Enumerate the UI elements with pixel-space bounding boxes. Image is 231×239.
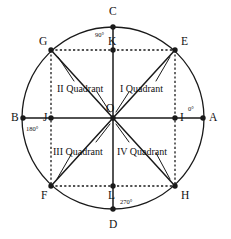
point-label-a: A bbox=[209, 112, 217, 124]
point-dot-j bbox=[48, 115, 53, 120]
point-label-b: B bbox=[11, 112, 19, 124]
circle-quadrant-figure: ABCDEFGHIJKLO0°90°180°270°I QuadrantII Q… bbox=[0, 0, 231, 239]
point-dot-l bbox=[110, 183, 115, 188]
point-label-g: G bbox=[39, 36, 47, 48]
angle-label-one-eighty: 180° bbox=[26, 126, 38, 133]
point-label-j: J bbox=[43, 112, 47, 124]
point-dot-a bbox=[200, 115, 205, 120]
point-dot-o bbox=[110, 115, 115, 120]
point-label-k: K bbox=[108, 36, 116, 48]
point-label-f: F bbox=[41, 190, 47, 202]
point-label-l: L bbox=[108, 190, 115, 202]
point-dot-i bbox=[172, 115, 177, 120]
quadrant-3-label: III Quadrant bbox=[53, 147, 103, 157]
point-dot-f bbox=[48, 183, 53, 188]
quadrant-4-label: IV Quadrant bbox=[117, 147, 167, 157]
leader-q3-to-O bbox=[96, 124, 110, 142]
point-label-h: H bbox=[181, 190, 189, 202]
leader-q2-to-G bbox=[58, 57, 74, 81]
angle-label-zero: 0° bbox=[188, 106, 194, 113]
point-dot-b bbox=[20, 115, 25, 120]
point-label-o: O bbox=[106, 103, 114, 115]
quadrant-2-label: II Quadrant bbox=[57, 84, 103, 94]
point-label-e: E bbox=[181, 36, 188, 48]
point-dot-d bbox=[110, 206, 115, 211]
angle-label-two-seventy: 270° bbox=[120, 199, 132, 206]
angle-label-ninety: 90° bbox=[95, 32, 104, 39]
point-label-i: I bbox=[180, 112, 184, 124]
point-dot-k bbox=[110, 47, 115, 52]
point-label-c: C bbox=[109, 6, 117, 18]
point-dot-g bbox=[48, 47, 53, 52]
quadrant-1-label: I Quadrant bbox=[120, 84, 163, 94]
point-dot-c bbox=[110, 24, 115, 29]
point-dot-h bbox=[172, 183, 177, 188]
point-label-d: D bbox=[109, 219, 117, 231]
point-dot-e bbox=[172, 47, 177, 52]
